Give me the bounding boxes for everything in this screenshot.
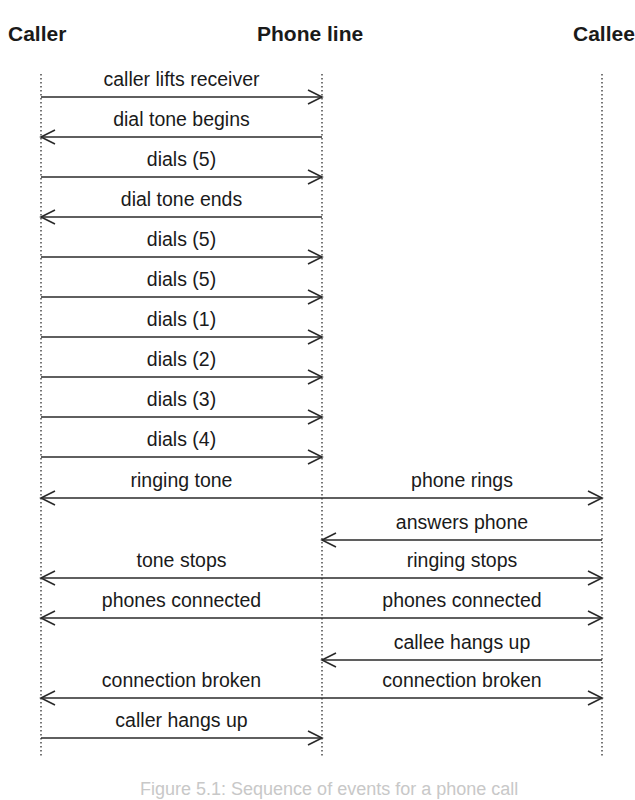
- message-label: callee hangs up: [394, 631, 531, 654]
- message-label: dials (3): [147, 388, 216, 411]
- message-label: connection broken: [102, 669, 261, 692]
- figure-caption: Figure 5.1: Sequence of events for a pho…: [140, 779, 518, 800]
- message-label: ringing tone: [131, 469, 233, 492]
- message-label: dials (1): [147, 308, 216, 331]
- message-label-right: connection broken: [382, 669, 541, 692]
- message-label: caller hangs up: [115, 709, 247, 732]
- message-label: dial tone ends: [121, 188, 242, 211]
- message-label: dials (5): [147, 268, 216, 291]
- message-label: tone stops: [137, 549, 227, 572]
- message-label: dials (4): [147, 428, 216, 451]
- message-label: caller lifts receiver: [103, 68, 259, 91]
- message-label: dial tone begins: [113, 108, 250, 131]
- message-label: dials (2): [147, 348, 216, 371]
- message-label-right: phone rings: [411, 469, 513, 492]
- message-label-right: ringing stops: [407, 549, 518, 572]
- message-label: dials (5): [147, 228, 216, 251]
- message-label: dials (5): [147, 148, 216, 171]
- message-label-right: phones connected: [382, 589, 541, 612]
- message-label: phones connected: [102, 589, 261, 612]
- message-label: answers phone: [396, 511, 528, 534]
